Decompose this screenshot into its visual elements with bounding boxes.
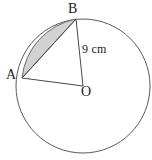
point-label-a: A: [6, 68, 16, 82]
radius-oa: [22, 78, 83, 86]
point-label-b: B: [68, 2, 77, 16]
geometry-figure: A B O 9 cm: [0, 0, 152, 160]
circle-diagram-canvas: [0, 0, 152, 160]
radius-measure-label: 9 cm: [82, 43, 106, 55]
point-label-o: O: [81, 85, 91, 99]
